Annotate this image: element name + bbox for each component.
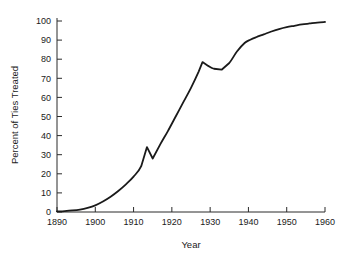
x-tick-label: 1950 [277,217,297,227]
y-tick-label: 80 [41,54,51,64]
x-tick-label: 1960 [315,217,335,227]
x-tick-label: 1920 [162,217,182,227]
y-tick-label: 100 [36,16,51,26]
y-axis-title: Percent of Ties Treated [9,66,20,164]
y-tick-label: 10 [41,188,51,198]
x-tick-label: 1890 [47,217,67,227]
line-chart: 0102030405060708090100 18901900191019201… [0,0,350,258]
x-axis-title: Year [181,239,200,250]
axis-tickmarks [57,21,325,212]
x-tick-label: 1910 [124,217,144,227]
y-tick-label: 90 [41,35,51,45]
y-tick-label: 30 [41,150,51,160]
x-axis-tick-labels: 18901900191019201930194019501960 [47,217,335,227]
data-series-line [57,22,325,211]
chart-figure: 0102030405060708090100 18901900191019201… [0,0,350,258]
y-axis-tick-labels: 0102030405060708090100 [36,16,51,217]
y-tick-label: 40 [41,131,51,141]
y-tick-label: 20 [41,169,51,179]
y-tick-label: 0 [46,207,51,217]
axis-spines [57,18,325,212]
y-tick-label: 50 [41,112,51,122]
y-tick-label: 70 [41,74,51,84]
y-tick-label: 60 [41,93,51,103]
x-tick-label: 1930 [200,217,220,227]
x-tick-label: 1940 [238,217,258,227]
x-tick-label: 1900 [85,217,105,227]
